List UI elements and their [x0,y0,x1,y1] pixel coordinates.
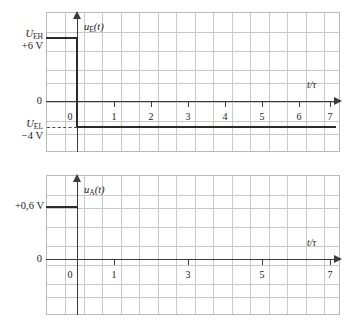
y-axis-arrow-top [73,11,81,19]
waveform-segment-low [76,126,336,128]
chart-output-voltage: 0 1 3 5 7 uA(t) t/τ 0 +0,6 V [0,163,352,326]
x-tick-bottom-0 [77,260,78,265]
level-label-u-eh: UEH [0,28,43,40]
x-axis-arrow-bottom [334,255,342,263]
signal-label-input-arg: (t) [94,21,104,32]
x-tick-label-top-5: 5 [252,112,272,122]
level-symbol-u-el: U [26,118,34,129]
y-axis-arrow-bottom [73,174,81,182]
signal-label-output: uA(t) [84,184,105,195]
chart-input-voltage: 0 1 2 3 4 5 6 7 uE(t) t/τ 0 UEH +6 V UEL… [0,0,352,163]
y-axis-bottom [77,181,78,315]
y-zero-label-bottom: 0 [22,253,42,264]
level-value-u-el: −4 V [0,130,43,141]
x-tick-top-1 [114,102,115,107]
x-axis-title-top: t/τ [307,79,316,90]
y-zero-label-top: 0 [22,95,42,106]
x-tick-top-0 [77,102,78,107]
x-tick-label-top-7: 7 [320,112,340,122]
x-tick-bottom-7 [330,260,331,265]
x-tick-label-bottom-0: 0 [60,270,80,280]
waveform-segment-high [46,37,78,39]
x-tick-top-3 [188,102,189,107]
signal-label-input-sub: E [89,25,94,34]
x-tick-top-6 [299,102,300,107]
signal-label-input: uE(t) [84,21,104,32]
waveform-segment-output-level [46,206,78,208]
x-tick-label-top-2: 2 [141,112,161,122]
x-tick-label-top-6: 6 [289,112,309,122]
x-tick-label-top-1: 1 [104,112,124,122]
x-tick-label-top-0: 0 [60,112,80,122]
x-tick-label-bottom-1: 1 [104,270,124,280]
x-tick-bottom-3 [188,260,189,265]
low-level-dashed-extension [47,127,77,128]
signal-label-output-sub: A [89,188,94,197]
x-tick-label-bottom-5: 5 [252,270,272,280]
x-tick-bottom-1 [114,260,115,265]
level-symbol-u-eh: U [25,28,33,39]
x-axis-bottom [46,259,335,260]
x-tick-top-7 [330,102,331,107]
x-tick-label-top-4: 4 [215,112,235,122]
voltage-waveform-figure: 0 1 2 3 4 5 6 7 uE(t) t/τ 0 UEH +6 V UEL… [0,0,352,326]
level-value-u-eh: +6 V [0,40,43,51]
signal-label-output-arg: (t) [95,184,105,195]
level-label-u-el: UEL [0,118,43,130]
x-axis-top [46,101,335,102]
x-tick-top-5 [262,102,263,107]
x-tick-label-top-3: 3 [178,112,198,122]
x-tick-top-2 [151,102,152,107]
x-tick-top-4 [225,102,226,107]
x-axis-title-bottom: t/τ [307,237,316,248]
x-axis-arrow-top [334,97,342,105]
x-tick-label-bottom-3: 3 [178,270,198,280]
x-tick-label-bottom-7: 7 [320,270,340,280]
level-value-output: +0,6 V [0,200,44,211]
x-tick-bottom-5 [262,260,263,265]
